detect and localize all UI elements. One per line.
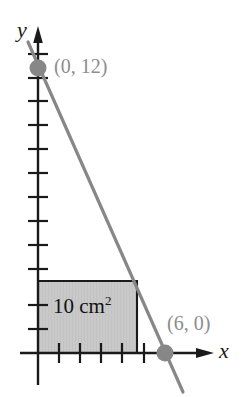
x-axis-label: x xyxy=(219,340,229,362)
area-label-exponent: 2 xyxy=(105,293,112,308)
figure-root: (0, 12) (6, 0) 10 cm2 y x xyxy=(0,0,244,397)
graph-canvas xyxy=(0,0,244,397)
y-axis-label: y xyxy=(17,19,27,41)
x-axis-arrowhead xyxy=(196,348,214,358)
y-axis-arrowhead xyxy=(33,26,43,43)
point-label-0-12: (0, 12) xyxy=(54,56,107,76)
data-point-0-12[interactable] xyxy=(30,60,47,77)
point-label-6-0: (6, 0) xyxy=(167,313,210,333)
area-label-value: 10 cm xyxy=(53,294,105,318)
area-label: 10 cm2 xyxy=(53,296,111,317)
data-point-6-0[interactable] xyxy=(157,345,174,362)
